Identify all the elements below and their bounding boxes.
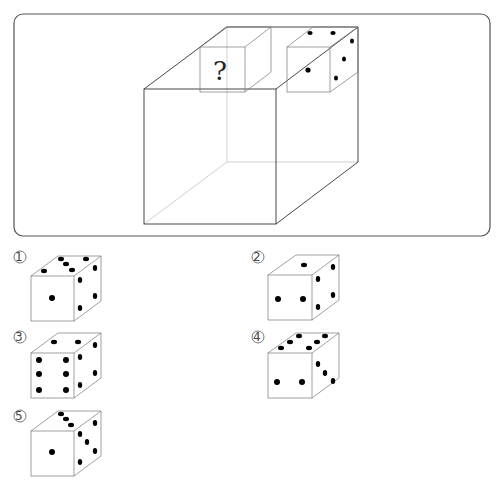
known-die [287,27,358,92]
large-cube [144,27,358,224]
option-2[interactable]: 2 [252,250,339,320]
svg-text:4: 4 [253,330,261,344]
puzzle-canvas: ? 1 2 [0,0,501,486]
option-5[interactable]: 5 [14,409,101,476]
option-1[interactable]: 1 [14,250,101,321]
svg-text:1: 1 [15,250,23,264]
question-mark: ? [213,56,227,86]
option-3[interactable]: 3 [14,330,101,398]
svg-text:2: 2 [253,250,261,264]
figure-frame [14,14,490,236]
svg-text:3: 3 [15,330,23,344]
unknown-die: ? [200,27,271,92]
svg-text:5: 5 [15,409,23,423]
option-4[interactable]: 4 [252,330,339,398]
